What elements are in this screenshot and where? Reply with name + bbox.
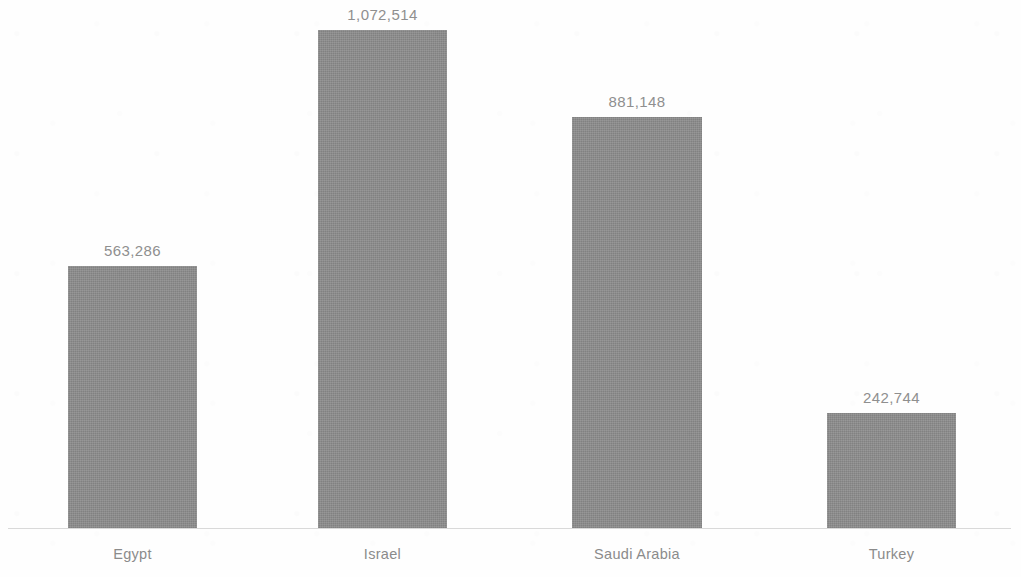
category-label-israel: Israel (318, 547, 447, 562)
data-label-turkey: 242,744 (827, 390, 956, 405)
category-label-turkey: Turkey (827, 547, 956, 562)
data-label-egypt: 563,286 (68, 243, 197, 258)
category-label-egypt: Egypt (68, 547, 197, 562)
data-label-israel: 1,072,514 (318, 7, 447, 22)
category-axis-line (8, 528, 1011, 529)
plot-area: 563,286 1,072,514 881,148 242,744 Egypt … (0, 0, 1021, 577)
bar-israel[interactable] (318, 30, 447, 529)
bar-saudi-arabia[interactable] (572, 117, 702, 529)
bar-turkey[interactable] (827, 413, 956, 529)
bar-chart: 563,286 1,072,514 881,148 242,744 Egypt … (0, 0, 1021, 577)
bar-egypt[interactable] (68, 266, 197, 529)
category-label-saudi-arabia: Saudi Arabia (572, 547, 702, 562)
data-label-saudi-arabia: 881,148 (572, 94, 702, 109)
